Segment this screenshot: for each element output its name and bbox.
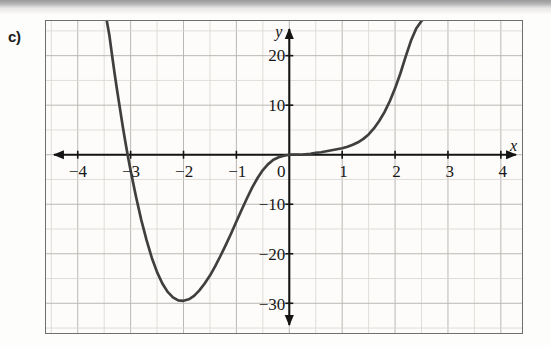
scan-edge-band [0,0,551,9]
problem-label: c) [8,28,21,45]
axis-tick-label: −2 [175,163,193,180]
axis-tick-label: 20 [261,47,285,64]
axis-tick-label: 2 [392,163,401,180]
axis-tick-label: 1 [339,163,348,180]
axis-tick-label: −30 [251,296,285,313]
axis-tick-label: 4 [498,163,507,180]
axis-tick-label: −1 [228,163,246,180]
axis-tick-label: 0 [277,163,286,180]
axis-tick-label: −20 [251,246,285,263]
graph-plot-area: −4−3−2−1012342010−10−20−30yx [45,20,523,334]
axis-tick-label: −4 [69,163,87,180]
axis-tick-label: 3 [445,163,454,180]
y-axis-label: y [275,24,282,40]
scanned-page: c) −4−3−2−1012342010−10−20−30yx [0,0,551,347]
axis-tick-label: 10 [261,97,285,114]
axis-tick-label: −3 [122,163,140,180]
axis-tick-label: −10 [251,196,285,213]
x-axis-label: x [510,138,517,154]
scan-edge-band-fade [0,9,551,14]
